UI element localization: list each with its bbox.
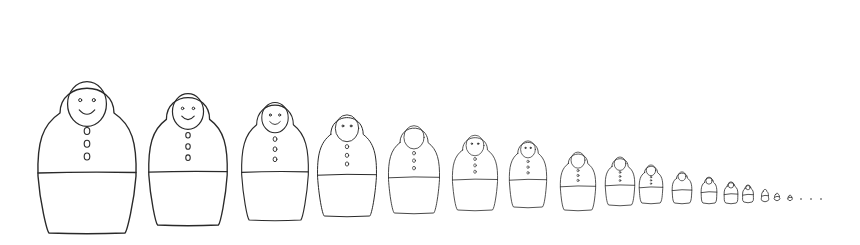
doll-button xyxy=(650,176,651,178)
doll-body-outline xyxy=(672,173,692,204)
doll-8 xyxy=(560,152,595,211)
doll-waist-line xyxy=(38,172,136,173)
doll-waist-line xyxy=(701,192,717,193)
doll-button xyxy=(84,128,90,135)
tiny-doll-dot xyxy=(820,198,822,200)
doll-eye xyxy=(530,147,531,148)
tiny-doll-dot xyxy=(810,198,812,200)
doll-waist-line xyxy=(743,194,754,195)
doll-waist-line xyxy=(560,186,595,187)
doll-2 xyxy=(149,94,228,226)
doll-waist-line xyxy=(788,197,792,198)
doll-smile xyxy=(182,116,194,119)
doll-button xyxy=(186,144,190,150)
doll-waist-line xyxy=(724,194,738,195)
doll-11 xyxy=(672,172,692,204)
doll-button xyxy=(273,157,277,162)
doll-face xyxy=(466,135,484,156)
doll-body-outline xyxy=(242,105,309,221)
doll-16 xyxy=(774,193,780,201)
doll-button xyxy=(413,151,416,155)
doll-face xyxy=(335,115,358,142)
doll-waist-line xyxy=(509,179,546,180)
doll-body-outline xyxy=(724,183,738,204)
doll-body-outline xyxy=(560,154,595,211)
doll-body-outline xyxy=(149,98,228,226)
doll-button xyxy=(345,162,348,166)
doll-button xyxy=(619,179,621,181)
doll-waist-line xyxy=(762,195,769,196)
doll-button xyxy=(527,166,529,169)
doll-button xyxy=(650,183,651,185)
doll-eye xyxy=(269,114,271,116)
doll-face xyxy=(571,152,585,168)
doll-eye xyxy=(79,99,82,102)
doll-button xyxy=(577,179,579,182)
doll-14 xyxy=(743,185,754,203)
doll-15 xyxy=(761,189,769,201)
doll-button xyxy=(413,159,416,163)
doll-17 xyxy=(787,195,792,201)
doll-eye xyxy=(350,125,352,127)
doll-face xyxy=(521,141,536,158)
doll-eye xyxy=(471,143,472,144)
doll-button xyxy=(474,157,477,160)
doll-button xyxy=(84,153,90,160)
doll-9 xyxy=(605,157,634,206)
doll-5 xyxy=(388,126,439,214)
doll-13 xyxy=(724,182,738,204)
doll-body-outline xyxy=(452,138,497,211)
doll-button xyxy=(650,180,651,182)
doll-button xyxy=(345,145,348,149)
doll-eye xyxy=(342,125,344,127)
doll-waist-line xyxy=(149,171,227,172)
doll-button xyxy=(474,164,477,167)
doll-eye xyxy=(192,107,194,109)
doll-3 xyxy=(242,102,309,220)
doll-body-outline xyxy=(701,178,717,204)
doll-waist-line xyxy=(639,187,663,188)
doll-waist-line xyxy=(452,179,497,180)
doll-waist-line xyxy=(605,185,634,186)
doll-button xyxy=(273,137,277,142)
doll-face xyxy=(404,126,424,149)
doll-smile xyxy=(270,122,281,125)
doll-face xyxy=(262,102,288,132)
doll-waist-line xyxy=(672,190,692,191)
doll-button xyxy=(186,155,190,161)
doll-12 xyxy=(701,177,717,204)
doll-6 xyxy=(452,135,497,211)
tiny-doll-dot xyxy=(800,198,802,200)
doll-body-outline xyxy=(38,88,136,234)
doll-button xyxy=(577,169,579,172)
doll-button xyxy=(527,160,529,163)
doll-body-outline xyxy=(639,166,663,203)
dolls-drawing xyxy=(0,0,860,245)
doll-button xyxy=(619,171,621,173)
doll-eye xyxy=(181,107,183,109)
doll-button xyxy=(474,170,477,173)
doll-button xyxy=(345,153,348,157)
doll-7 xyxy=(509,141,546,208)
doll-eye xyxy=(279,114,281,116)
doll-waist-line xyxy=(318,174,377,175)
doll-eye xyxy=(477,143,478,144)
doll-button xyxy=(273,147,277,152)
doll-eye xyxy=(525,147,526,148)
doll-body-outline xyxy=(388,128,439,214)
doll-1 xyxy=(38,82,136,234)
doll-smile xyxy=(79,110,95,114)
doll-button xyxy=(413,166,416,170)
doll-button xyxy=(527,172,529,175)
doll-button xyxy=(84,140,90,147)
doll-body-outline xyxy=(509,142,546,207)
doll-body-outline xyxy=(605,159,634,206)
doll-waist-line xyxy=(389,177,440,178)
doll-body-outline xyxy=(318,118,377,217)
doll-button xyxy=(186,132,190,138)
nesting-dolls-sketch xyxy=(0,0,860,245)
doll-waist-line xyxy=(242,172,309,173)
doll-face xyxy=(172,94,203,130)
doll-button xyxy=(577,174,579,177)
doll-button xyxy=(619,175,621,177)
